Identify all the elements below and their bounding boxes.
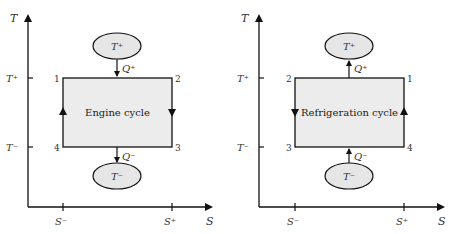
hot-reservoir-label: T⁺	[111, 41, 123, 52]
tick-label-t-minus: T⁻	[237, 142, 249, 153]
heat-released-label: Q⁺	[354, 63, 367, 74]
tick-label-s-plus: S⁺	[164, 216, 176, 227]
refrigeration-cycle-title: Refrigeration cycle	[301, 107, 398, 118]
corner-3: 3	[175, 143, 181, 153]
tick-label-s-plus: S⁺	[396, 216, 408, 227]
corner-1: 1	[407, 74, 413, 84]
corner-4: 4	[407, 143, 413, 153]
corner-2: 2	[286, 74, 292, 84]
s-axis-label: S	[206, 215, 214, 228]
tick-label-t-plus: T⁺	[6, 73, 18, 84]
tick-label-s-minus: S⁻	[55, 216, 67, 227]
heat-absorbed-label: Q⁻	[354, 151, 367, 162]
engine-cycle-diagram: T S T⁺ T⁻ S⁻ S⁺ Engine cycle 1 2 3 4 T⁺ …	[6, 12, 214, 228]
heat-in-label: Q⁺	[122, 63, 135, 74]
corner-3: 3	[286, 143, 292, 153]
hot-reservoir-label: T⁺	[343, 41, 355, 52]
corner-4: 4	[54, 143, 60, 153]
t-axis-label: T	[241, 12, 250, 25]
tick-label-t-plus: T⁺	[237, 73, 249, 84]
tick-label-t-minus: T⁻	[6, 142, 18, 153]
corner-1: 1	[54, 74, 60, 84]
corner-2: 2	[175, 74, 181, 84]
heat-out-label: Q⁻	[122, 151, 135, 162]
tick-label-s-minus: S⁻	[287, 216, 299, 227]
s-axis-label: S	[438, 215, 446, 228]
thermodynamic-cycles-figure: T S T⁺ T⁻ S⁻ S⁺ Engine cycle 1 2 3 4 T⁺ …	[0, 0, 456, 234]
refrigeration-cycle-diagram: T S T⁺ T⁻ S⁻ S⁺ Refrigeration cycle 2 1 …	[237, 12, 446, 228]
cold-reservoir-label: T⁻	[111, 171, 123, 182]
cold-reservoir-label: T⁻	[343, 171, 355, 182]
t-axis-label: T	[10, 12, 19, 25]
engine-cycle-title: Engine cycle	[85, 107, 150, 118]
